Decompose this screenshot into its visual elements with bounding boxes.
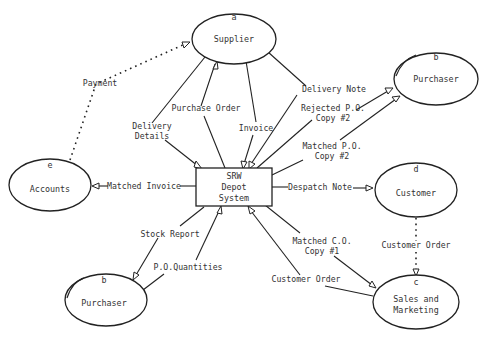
flow-payment [70, 42, 190, 160]
flow-label-despatch-note: Despatch Note [288, 182, 352, 192]
flow-delivery-details [152, 57, 205, 169]
flow-purchase-order [201, 61, 225, 168]
flow-label-delivery-details: Details [135, 131, 170, 141]
arrowhead-icon [385, 88, 393, 94]
arrowhead-icon [133, 272, 139, 280]
entity-label: Supplier [214, 34, 254, 44]
process-label-line: Depot [221, 182, 246, 192]
entity-purchaser-bottom[interactable]: b Purchaser [65, 274, 147, 326]
entity-label: Purchaser [81, 298, 126, 308]
flow-label-customer-order-dotted: Customer Order [381, 240, 450, 250]
flow-label-customer-order: Customer Order [271, 274, 340, 284]
entity-purchaser-top[interactable]: b Purchaser [394, 52, 478, 105]
flow-delivery-note [249, 52, 306, 169]
entity-letter: b [101, 275, 106, 285]
flow-label-matched-invoice: Matched Invoice [107, 181, 181, 191]
flow-label-po-quantities: P.O.Quantities [153, 262, 222, 272]
entity-customer[interactable]: d Customer [375, 163, 457, 217]
flow-po-quantities [143, 206, 222, 290]
entity-label: Accounts [30, 184, 70, 194]
flow-label-payment: Payment [83, 78, 118, 88]
flow-label-delivery-details: Delivery [132, 121, 172, 131]
entity-letter: d [413, 164, 418, 174]
flow-label-invoice: Invoice [239, 123, 274, 133]
flow-label-matched-co: Matched C.O. [292, 236, 351, 246]
process-label-line: System [219, 193, 249, 203]
arrowhead-icon [366, 185, 373, 191]
arrowhead-icon [369, 281, 376, 288]
entity-label-line: Marketing [393, 305, 438, 315]
entity-letter: e [47, 160, 52, 170]
entity-label: Customer [396, 188, 436, 198]
arrowhead-icon [92, 183, 99, 189]
entity-letter: a [231, 12, 236, 22]
flow-label-stock-report: Stock Report [140, 229, 199, 239]
flow-label-rejected-po: Rejected P.O. [301, 103, 365, 113]
arrowhead-icon [217, 206, 222, 214]
entity-supplier[interactable]: a Supplier [192, 12, 276, 64]
entity-letter: c [413, 277, 418, 287]
process-srw-depot-system[interactable]: SRW Depot System [196, 168, 272, 206]
context-diagram: a Supplier b Purchaser e Accounts SRW De… [0, 0, 486, 338]
arrowhead-icon [182, 42, 190, 48]
flow-label-matched-co: Copy #1 [305, 246, 340, 256]
process-label-line: SRW [226, 171, 242, 181]
arrowhead-icon [248, 206, 255, 214]
flow-label-matched-po: Copy #2 [315, 151, 350, 161]
flow-label-delivery-note: Delivery Note [302, 84, 366, 94]
entity-label: Purchaser [413, 74, 458, 84]
flow-label-rejected-po: Copy #2 [316, 113, 351, 123]
entity-accounts[interactable]: e Accounts [9, 159, 91, 211]
flow-label-matched-po: Matched P.O. [302, 141, 361, 151]
entity-label-line: Sales and [393, 294, 438, 304]
entity-sales-and-marketing[interactable]: c Sales and Marketing [373, 275, 459, 329]
entity-letter: b [433, 52, 438, 62]
flow-invoice [241, 61, 256, 169]
flow-label-purchase-order: Purchase Order [171, 103, 240, 113]
